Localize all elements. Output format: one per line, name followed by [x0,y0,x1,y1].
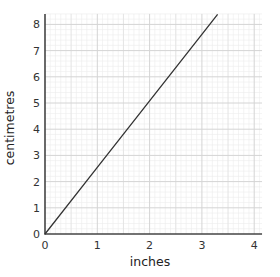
x-tick-label: 1 [94,239,101,252]
y-axis-title: centimetres [2,91,17,166]
x-tick-label: 0 [42,239,49,252]
y-tick-label: 6 [33,71,40,84]
x-tick-label: 3 [198,239,205,252]
x-axis-title: inches [130,254,170,269]
y-tick-label: 3 [33,149,40,162]
y-tick-label: 0 [33,228,40,241]
x-tick-labels: 01234 [42,239,258,252]
y-tick-label: 1 [33,202,40,215]
y-tick-label: 7 [33,45,40,58]
x-tick-label: 2 [146,239,153,252]
grid [45,14,262,234]
y-tick-label: 8 [33,18,40,31]
y-tick-label: 2 [33,176,40,189]
conversion-chart: 01234 012345678 inches centimetres [0,0,280,277]
y-tick-labels: 012345678 [33,18,40,241]
x-tick-label: 4 [251,239,258,252]
y-tick-label: 4 [33,123,40,136]
y-tick-label: 5 [33,97,40,110]
